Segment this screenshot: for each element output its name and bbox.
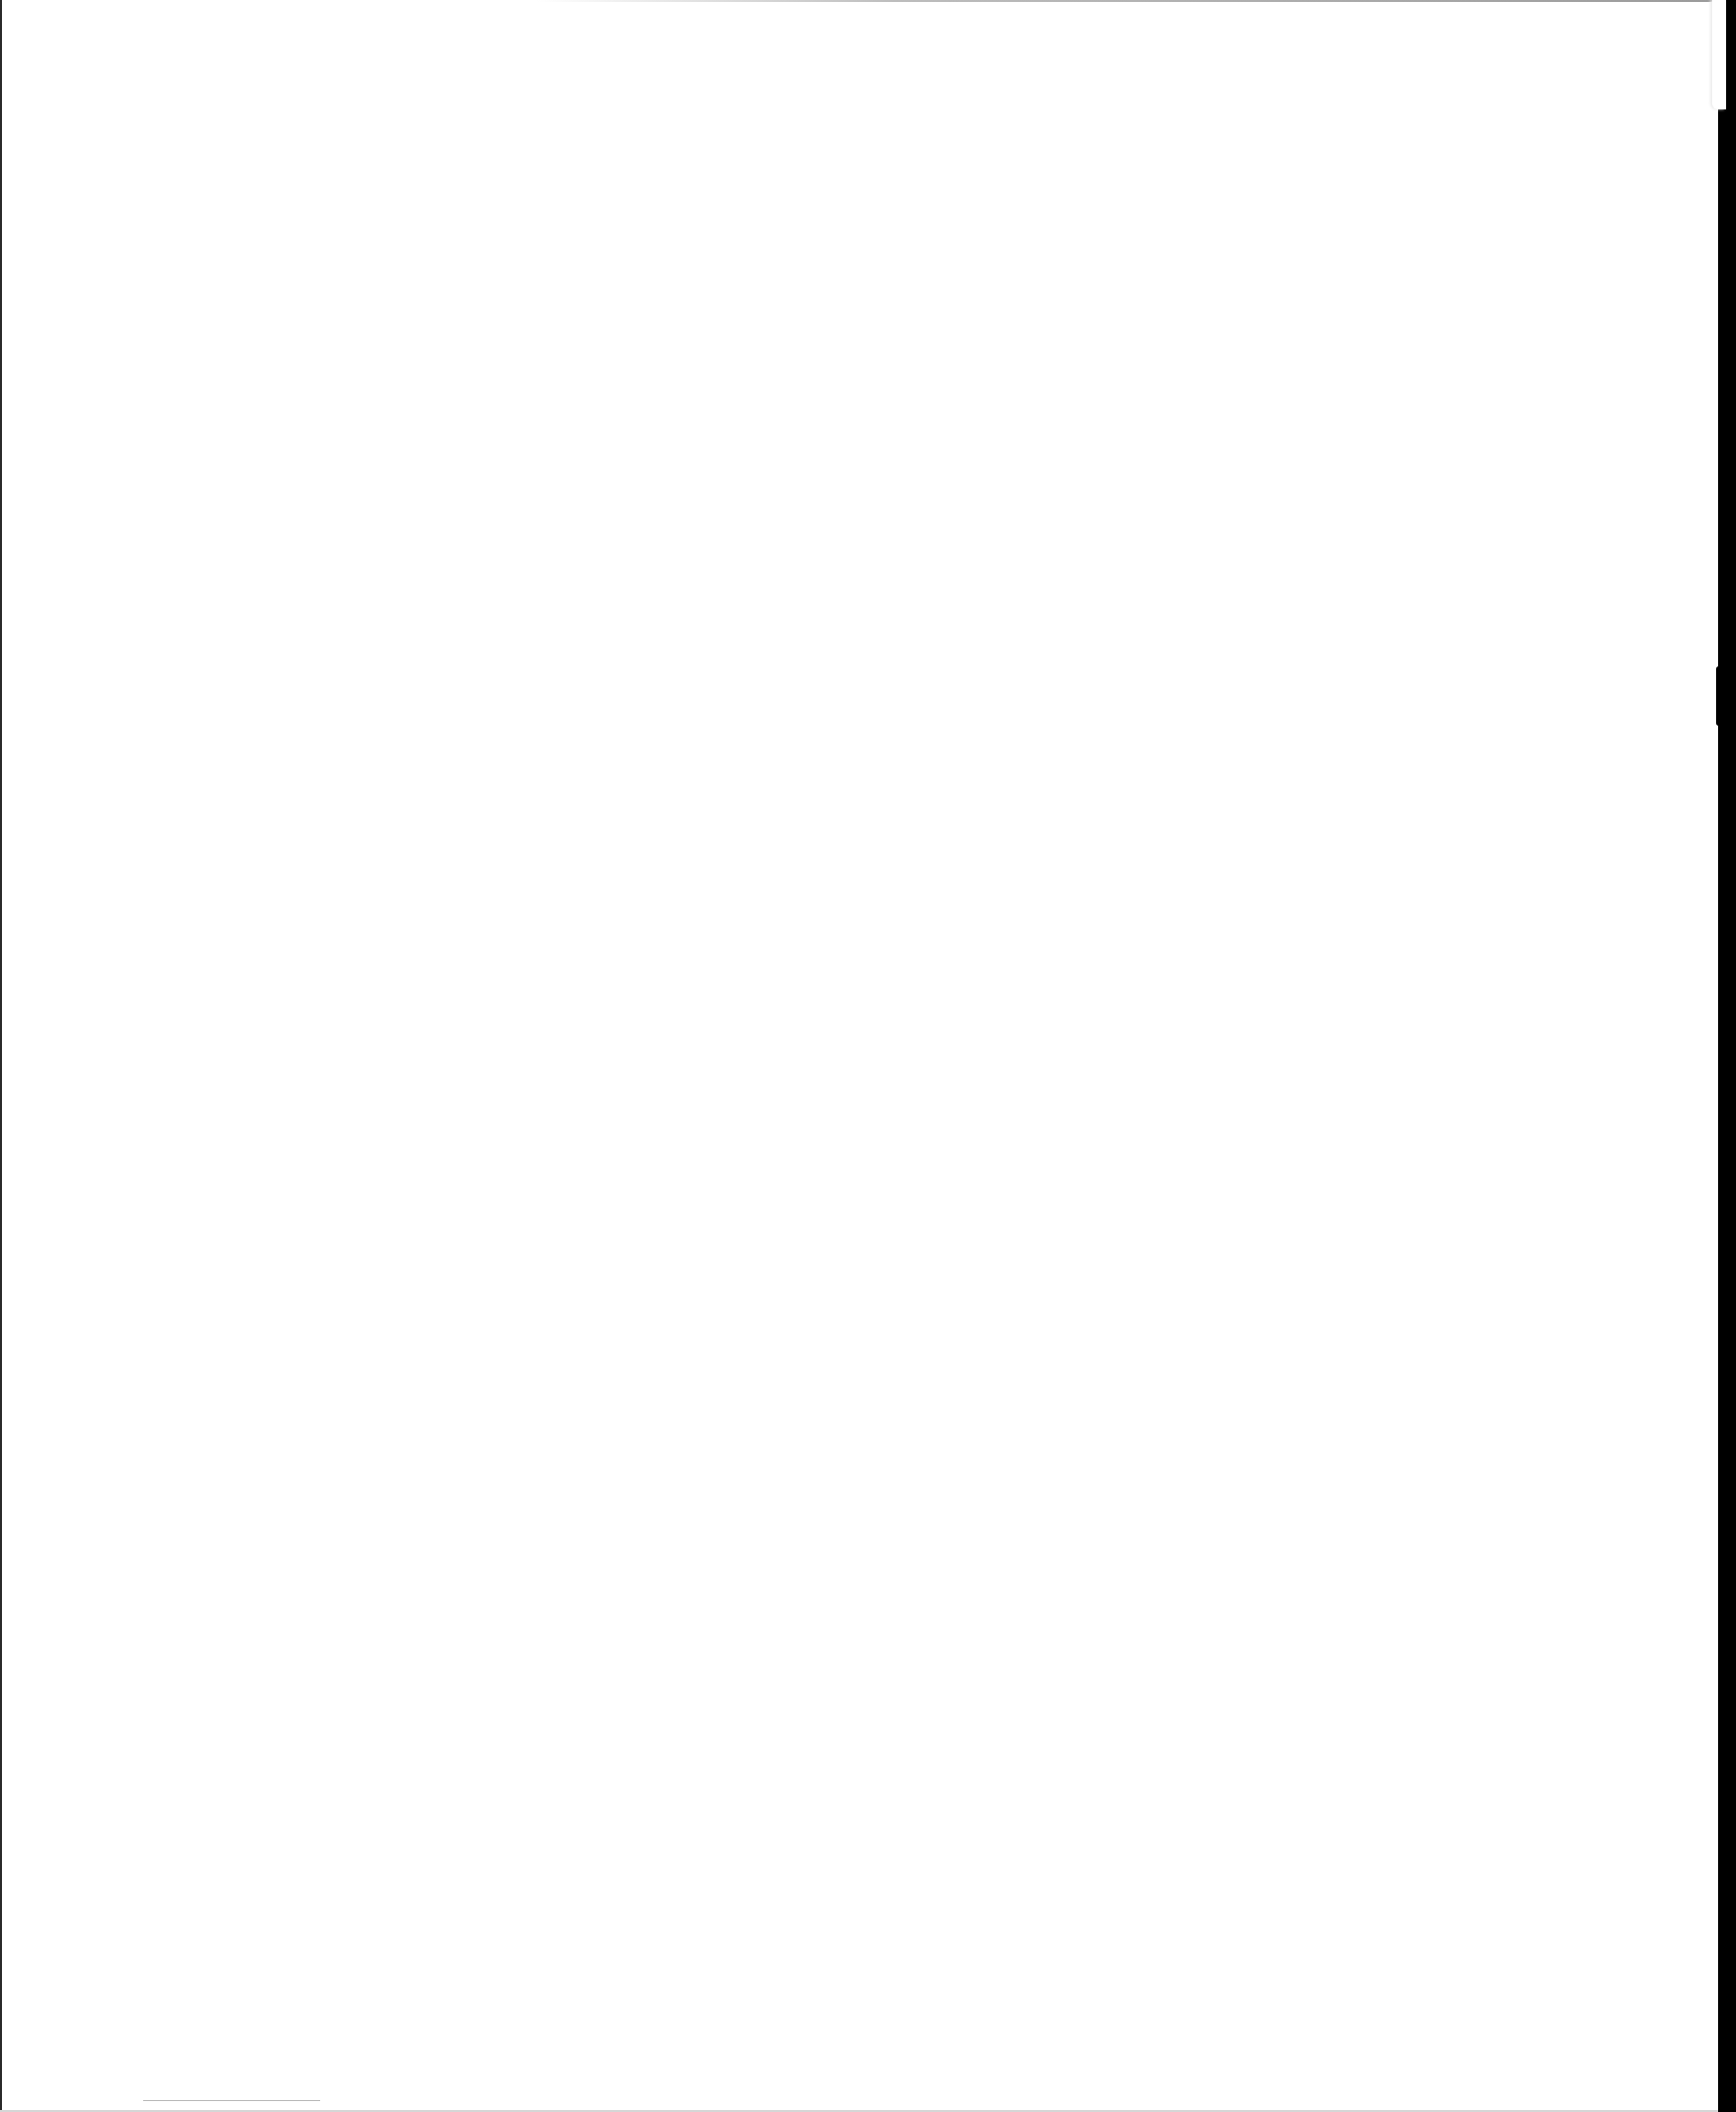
scanner-right-border <box>1718 0 1736 2112</box>
scanner-border-fray <box>1712 0 1726 109</box>
page-left-edge <box>0 0 2 2112</box>
scanned-page <box>0 0 1736 2112</box>
page-top-edge <box>537 0 1730 2</box>
scanner-border-notch <box>1716 666 1722 726</box>
footnote-separator-rule <box>143 2100 320 2101</box>
